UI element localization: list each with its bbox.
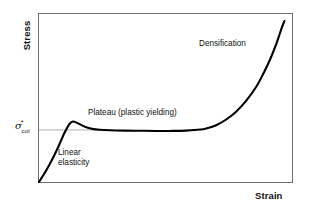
- sigma-col-tick-label: σ*col: [15, 119, 33, 133]
- x-axis-title: Strain: [255, 190, 283, 201]
- stress-strain-figure: Stress Strain σ*col Linear elasticity Pl…: [0, 0, 313, 209]
- sigma-subscript: col: [22, 127, 30, 134]
- annotation-linear-line2: elasticity: [58, 158, 89, 167]
- annotation-linear-line1: Linear: [58, 148, 81, 157]
- y-axis-title: Stress: [21, 6, 32, 66]
- annotation-densification: Densification: [199, 39, 246, 49]
- sigma-superscript: *: [21, 119, 24, 126]
- annotation-linear-elasticity: Linear elasticity: [58, 148, 110, 168]
- annotation-plateau: Plateau (plastic yielding): [88, 108, 177, 118]
